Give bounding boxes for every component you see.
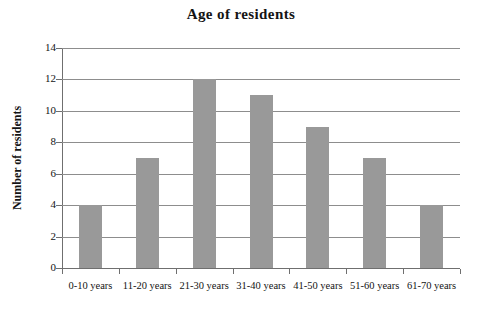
bar xyxy=(250,95,273,268)
x-axis-tick-label: 11-20 years xyxy=(119,280,176,292)
y-axis-tick xyxy=(56,268,62,269)
y-axis-tick-label: 6 xyxy=(16,168,56,179)
y-axis-tick-label: 12 xyxy=(16,73,56,84)
y-axis-tick-labels: 02468101214 xyxy=(10,0,56,313)
y-axis-tick xyxy=(56,142,62,143)
x-axis-tick xyxy=(62,269,63,274)
gridline xyxy=(62,48,460,49)
x-axis-tick xyxy=(346,269,347,274)
x-axis-tick-label: 0-10 years xyxy=(62,280,119,292)
x-axis-tick-labels: 0-10 years11-20 years21-30 years31-40 ye… xyxy=(62,280,460,296)
bar xyxy=(136,158,159,268)
y-axis-tick xyxy=(56,174,62,175)
bar xyxy=(79,205,102,268)
y-axis-tick-label: 4 xyxy=(16,199,56,210)
y-axis-tick xyxy=(56,111,62,112)
y-axis-tick-label: 2 xyxy=(16,231,56,242)
y-axis-tick-label: 14 xyxy=(16,42,56,53)
bar-chart: Age of residents Number of residents 024… xyxy=(0,0,482,313)
bar xyxy=(306,127,329,268)
x-axis-tick-label: 61-70 years xyxy=(403,280,460,292)
x-axis-tick-label: 31-40 years xyxy=(233,280,290,292)
gridline xyxy=(62,268,460,269)
gridline xyxy=(62,79,460,80)
x-axis-tick xyxy=(176,269,177,274)
x-axis-tick xyxy=(233,269,234,274)
y-axis-tick-label: 10 xyxy=(16,105,56,116)
x-axis-tick-label: 21-30 years xyxy=(176,280,233,292)
y-axis-tick xyxy=(56,48,62,49)
x-axis-tick xyxy=(119,269,120,274)
y-axis-tick xyxy=(56,237,62,238)
y-axis-tick-label: 8 xyxy=(16,136,56,147)
bar xyxy=(193,79,216,268)
bar xyxy=(363,158,386,268)
chart-title: Age of residents xyxy=(0,6,482,23)
x-axis-tick xyxy=(289,269,290,274)
plot-area xyxy=(62,48,460,268)
x-axis-tick-label: 51-60 years xyxy=(346,280,403,292)
y-axis-tick xyxy=(56,79,62,80)
bar xyxy=(420,205,443,268)
x-axis-tick xyxy=(460,269,461,274)
x-axis-tick xyxy=(403,269,404,274)
y-axis-tick-label: 0 xyxy=(16,262,56,273)
y-axis-tick xyxy=(56,205,62,206)
x-axis-tick-label: 41-50 years xyxy=(289,280,346,292)
